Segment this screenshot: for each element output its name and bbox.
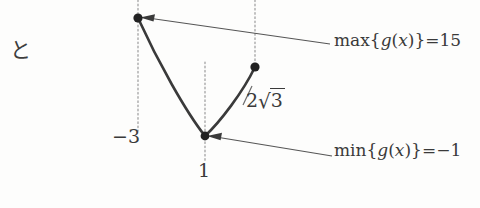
x-tick-label-right: 2√3 xyxy=(246,88,285,112)
max-annotation-label: max{g(x)}=15 xyxy=(334,30,461,50)
conjunction-character: と xyxy=(10,33,31,63)
max-close-paren: )} xyxy=(408,30,425,50)
min-prefix-text: min{ xyxy=(334,140,377,160)
min-equals-sign: = xyxy=(422,140,436,160)
min-function-variable: g xyxy=(377,140,388,160)
square-root-icon: √3 xyxy=(258,88,285,112)
max-value-text: 15 xyxy=(440,30,462,50)
max-equals-sign: = xyxy=(425,30,439,50)
point-max-left-endpoint xyxy=(133,13,142,22)
right-coefficient-text: 2 xyxy=(246,89,258,111)
min-value-text: −1 xyxy=(436,140,461,160)
min-argument-variable: x xyxy=(395,140,405,160)
min-open-paren: ( xyxy=(388,140,395,160)
max-argument-variable: x xyxy=(398,30,408,50)
max-function-variable: g xyxy=(381,30,392,50)
min-close-paren: )} xyxy=(404,140,421,160)
radical-sign-glyph: √ xyxy=(258,89,271,113)
max-prefix-text: max{ xyxy=(334,30,381,50)
leader-line-max xyxy=(148,18,330,44)
x-tick-label-left: −3 xyxy=(112,125,140,147)
parabola-curve xyxy=(138,18,255,136)
min-annotation-label: min{g(x)}=−1 xyxy=(334,140,461,160)
leader-line-min xyxy=(216,137,332,156)
point-right-endpoint xyxy=(250,62,259,71)
radicand-text: 3 xyxy=(270,88,285,111)
point-min-vertex xyxy=(201,132,210,141)
figure-canvas: と max{g(x)}=15 min{g(x)}=−1 −3 1 2√3 xyxy=(0,0,480,208)
x-tick-label-vertex: 1 xyxy=(198,159,210,181)
